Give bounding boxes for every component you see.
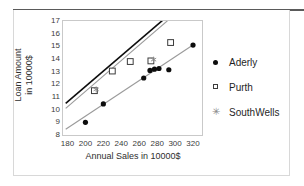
legend-item-purth[interactable]: Purth [209,80,297,94]
x-axis-title: Annual Sales in 10000$ [62,151,204,161]
data-point-aderly [156,66,161,71]
x-tick-label: 280 [150,139,163,148]
y-tick-label: 11 [52,93,60,101]
y-tick-label: 14 [51,55,60,63]
legend-item-southwells[interactable]: ✳SouthWells [209,105,297,119]
chart-page: 171615141312111098 180200220240260280300… [0,0,304,186]
data-point-purth [127,59,133,65]
legend-item-aderly[interactable]: Aderly [209,55,297,69]
x-tick-label: 320 [186,139,199,148]
y-tick-label: 13 [51,68,60,76]
y-tick-label: 15 [51,42,60,50]
x-tick-label: 260 [133,139,146,148]
open-square-glyph [213,84,218,89]
filled-circle-glyph [213,60,218,65]
asterisk-glyph: ✳ [211,106,221,118]
x-axis-tick-labels: 180200220240260280300320 [52,139,217,149]
y-tick-label: 8 [56,131,60,139]
x-tick-label: 180 [61,139,74,148]
y-axis-title: Loan Amount in 10000$ [13,20,35,130]
data-point-purth [109,68,115,74]
scatter-chart-figure: 171615141312111098 180200220240260280300… [0,0,304,186]
y-axis-title-line1: Loan Amount [13,20,24,130]
legend-item-label: SouthWells [225,107,279,118]
plot-area [62,20,203,136]
plot-svg [63,21,202,135]
y-tick-label: 9 [56,118,60,126]
filled-circle-icon [209,55,225,69]
data-point-aderly [101,101,106,106]
legend-item-label: Aderly [225,57,257,68]
x-tick-label: 300 [168,139,181,148]
data-point-aderly [83,120,88,125]
y-tick-label: 17 [51,17,60,25]
y-axis-tick-labels: 171615141312111098 [42,20,60,136]
chart-legend: AderlyPurth✳SouthWells [209,55,297,125]
data-point-aderly [166,67,171,72]
x-tick-label: 200 [79,139,92,148]
y-tick-label: 10 [51,106,60,114]
x-tick-label: 240 [115,139,128,148]
y-tick-label: 12 [51,80,60,88]
data-point-aderly [141,75,146,80]
data-point-purth [168,40,174,46]
data-point-aderly [190,42,195,47]
asterisk-icon: ✳ [209,105,225,119]
data-point-aderly [152,67,157,72]
y-tick-label: 16 [51,30,60,38]
x-tick-label: 220 [97,139,110,148]
y-axis-title-line2: in 10000$ [24,20,35,130]
legend-item-label: Purth [225,82,253,93]
data-point-aderly [147,68,152,73]
open-square-icon [209,80,225,94]
